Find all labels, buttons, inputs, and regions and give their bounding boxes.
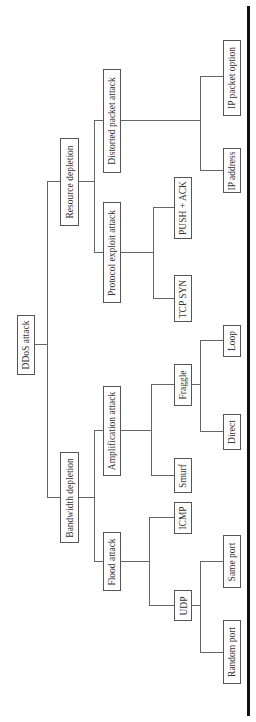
node-flood-attack: Flood attack [103,532,121,591]
node-random-port: Random port [223,620,241,684]
connector [200,431,223,432]
node-label: Resource depletion [65,145,75,218]
node-label: IP packet option [227,47,237,109]
connector [200,76,201,170]
connector [120,430,151,431]
connector [153,207,174,208]
connector [47,181,48,498]
connector [94,561,103,562]
node-label: Fraggle [178,370,188,399]
node-label: ICMP [178,506,188,529]
node-label: Loop [227,331,237,351]
node-label: TCP SYN [178,279,188,317]
node-ip-address: IP address [223,148,241,193]
connector [94,430,103,431]
connector [153,298,174,299]
connector [78,181,94,182]
node-label: Protocol exploit attack [107,209,117,295]
node-direct: Direct [223,414,241,450]
node-label: UDP [178,596,188,615]
page-edge-rule [247,6,250,716]
connector [94,252,103,253]
connector [191,605,200,606]
node-label: Amplification attack [107,392,117,470]
connector [151,475,174,476]
connector [120,120,200,121]
node-distorted-packet-attack: Distorted packet attack [103,69,121,173]
node-udp: UDP [174,590,192,621]
node-label: IP address [227,151,237,190]
ddos-taxonomy-diagram: DDoS attack Resource depletion Bandwidth… [0,0,256,722]
connector [94,120,103,121]
connector [47,497,60,498]
connector [94,120,95,252]
node-bandwidth-depletion: Bandwidth depletion [60,452,79,543]
node-amplification-attack: Amplification attack [103,386,121,476]
node-same-port: Same port [223,535,241,588]
node-label: Same port [227,542,237,581]
node-fraggle: Fraggle [174,364,192,406]
connector [78,497,94,498]
node-loop: Loop [223,325,241,357]
connector [151,384,174,385]
connector [94,430,95,561]
node-push-ack: PUSH + ACK [174,177,192,239]
connector [200,652,223,653]
connector [151,384,152,475]
node-label: Flood attack [107,538,117,585]
connector [200,561,201,652]
connector [149,517,150,605]
connector [34,344,47,345]
connector [200,76,223,77]
connector [120,252,153,253]
connector [200,340,223,341]
connector [153,207,154,298]
node-icmp: ICMP [174,502,192,534]
node-smurf: Smurf [174,458,192,493]
connector [149,517,174,518]
connector [149,605,174,606]
node-label: Direct [227,420,237,444]
node-tcp-syn: TCP SYN [174,275,192,322]
node-label: DDoS attack [21,321,31,370]
connector [120,561,149,562]
node-label: PUSH + ACK [178,181,188,235]
node-label: Distorted packet attack [107,77,117,165]
node-label: Bandwidth depletion [65,458,75,537]
node-label: Random port [227,627,237,677]
node-ip-packet-option: IP packet option [223,40,241,116]
connector [200,561,223,562]
connector [47,181,60,182]
node-label: Smurf [178,464,188,488]
node-resource-depletion: Resource depletion [60,138,79,226]
node-ddos-attack: DDoS attack [17,315,35,375]
connector [200,340,201,431]
connector [191,384,200,385]
node-protocol-exploit-attack: Protocol exploit attack [103,202,121,303]
connector [200,170,223,171]
